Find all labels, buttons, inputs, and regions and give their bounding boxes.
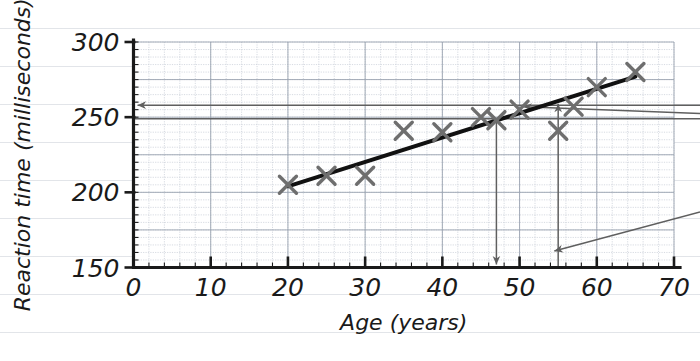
x-axis-tick-label: 30 xyxy=(349,273,381,302)
x-axis-tick-label: 0 xyxy=(126,273,142,302)
x-axis-tick-label: 20 xyxy=(272,273,304,302)
x-axis-tick-label: 10 xyxy=(195,273,227,302)
x-axis-tick-label: 50 xyxy=(504,273,536,302)
y-axis-tick-label: 250 xyxy=(72,103,120,132)
x-axis-title: Age (years) xyxy=(338,310,467,335)
y-axis-title: Reaction time (milliseconds) xyxy=(10,0,35,311)
x-axis-tick-label: 40 xyxy=(426,273,458,302)
x-axis-tick-label: 60 xyxy=(581,273,613,302)
scatter-plot-figure: 010203040506070150200250300Age (years)Re… xyxy=(0,0,700,361)
x-axis-tick-label: 70 xyxy=(658,273,690,302)
y-axis-tick-label: 300 xyxy=(72,28,120,57)
chart-canvas: 010203040506070150200250300Age (years)Re… xyxy=(0,0,700,361)
y-axis-tick-label: 150 xyxy=(72,254,120,283)
y-axis-tick-label: 200 xyxy=(72,178,120,207)
